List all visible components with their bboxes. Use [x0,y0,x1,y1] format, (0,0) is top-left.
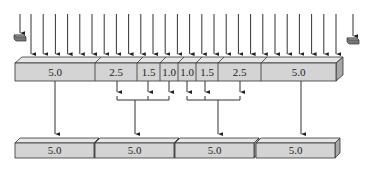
segment-label: 5.0 [292,66,306,78]
segment-label: 2.5 [233,66,247,78]
cutting-diagram: 5.02.51.51.01.01.52.55.0 5.05.05.05.0 [0,0,371,172]
segment-label: 1.0 [162,66,176,78]
block-label: 5.0 [208,144,222,156]
input-arrows [31,14,336,54]
top-bar: 5.02.51.51.01.01.52.55.0 [15,57,343,81]
segment-label: 1.0 [180,66,194,78]
bottom-blocks: 5.05.05.05.0 [15,138,340,158]
segment-label: 1.5 [142,66,156,78]
bottom-block: 5.0 [95,138,179,158]
connectors [55,81,301,134]
top-segment: 5.0 [48,66,62,78]
segment-label: 2.5 [109,66,123,78]
segment-label: 5.0 [48,66,62,78]
block-label: 5.0 [128,144,142,156]
block-label: 5.0 [289,144,303,156]
left-stopper-icon [14,14,26,41]
bottom-block: 5.0 [15,138,99,158]
block-label: 5.0 [48,144,62,156]
right-stopper-icon [347,14,359,44]
segment-label: 1.5 [200,66,214,78]
bottom-block: 5.0 [175,138,259,158]
bottom-block: 5.0 [256,138,340,158]
